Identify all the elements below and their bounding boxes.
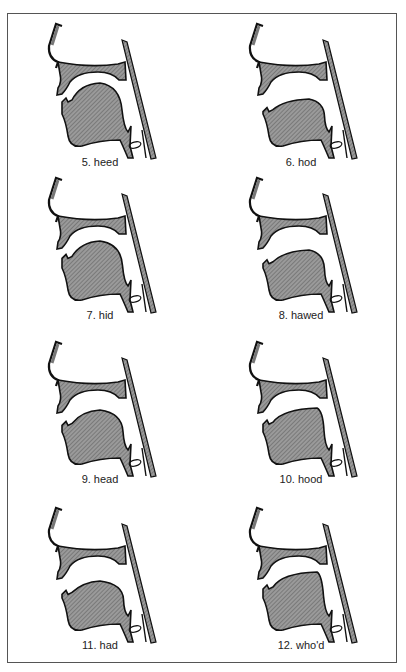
tongue-and-jaw	[62, 83, 133, 158]
panel-label: 10. hood	[201, 473, 401, 485]
panel-label: 8. hawed	[201, 309, 401, 321]
vocal-tract-diagram	[0, 172, 200, 322]
vocal-tract-diagram	[0, 336, 200, 486]
vocal-tract-diagram	[201, 502, 401, 652]
panel-label: 9. head	[0, 473, 200, 485]
vocal-tract-diagram	[0, 18, 200, 168]
panel-hod: 6. hod	[201, 18, 401, 183]
panel-label: 7. hid	[0, 309, 200, 321]
tongue-and-jaw	[263, 99, 334, 158]
vocal-tract-diagram	[201, 336, 401, 486]
panel-label: 11. had	[0, 639, 200, 651]
panel-hid: 7. hid	[0, 172, 200, 337]
tongue-and-jaw	[263, 572, 334, 642]
vocal-tract-diagram	[0, 502, 200, 652]
vocal-tract-diagram	[201, 172, 401, 322]
palate	[57, 380, 126, 413]
panel-heed: 5. heed	[0, 18, 200, 183]
palate	[258, 62, 327, 95]
tongue-and-jaw	[62, 581, 133, 642]
tongue-and-jaw	[263, 250, 334, 312]
panel-hood: 10. hood	[201, 336, 401, 501]
palate	[258, 216, 327, 249]
panel-hawed: 8. hawed	[201, 172, 401, 337]
tongue-and-jaw	[62, 410, 133, 476]
tongue-and-jaw	[263, 408, 334, 476]
panel-label: 12. who'd	[201, 639, 401, 651]
panel-label: 5. heed	[0, 156, 200, 168]
vocal-tract-diagram	[201, 18, 401, 168]
tongue-and-jaw	[62, 241, 133, 312]
panel-had: 11. had	[0, 502, 200, 667]
panel-head: 9. head	[0, 336, 200, 501]
panel-whod: 12. who'd	[201, 502, 401, 667]
palate	[57, 546, 126, 579]
panel-label: 6. hod	[201, 156, 401, 168]
